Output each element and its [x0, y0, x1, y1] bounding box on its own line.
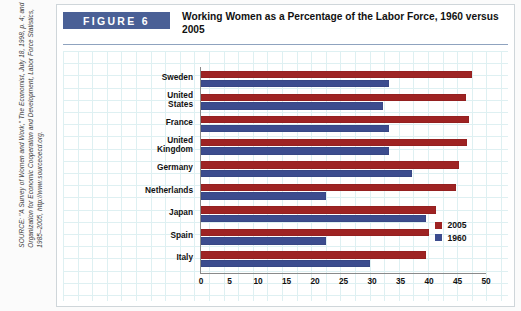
x-tick-label: 0: [199, 276, 204, 286]
category-label: Japan: [63, 208, 193, 217]
category-label: Italy: [63, 253, 193, 262]
bar-1960: [201, 192, 326, 199]
category-label: United Kingdom: [63, 136, 193, 155]
x-tick-label: 15: [282, 276, 291, 286]
chart-row: United States: [201, 92, 486, 115]
x-tick-label: 25: [339, 276, 348, 286]
category-label: France: [63, 118, 193, 127]
bar-2005: [201, 206, 436, 213]
x-tick-label: 20: [310, 276, 319, 286]
figure-title: Working Women as a Percentage of the Lab…: [182, 10, 506, 37]
bar-1960: [201, 102, 383, 109]
x-tick-label: 50: [481, 276, 490, 286]
x-tick-label: 5: [227, 276, 232, 286]
category-label: Germany: [63, 163, 193, 172]
chart-row: United Kingdom: [201, 137, 486, 160]
category-label: United States: [63, 91, 193, 110]
bar-2005: [201, 161, 459, 168]
x-tick-label: 10: [253, 276, 262, 286]
bar-2005: [201, 184, 456, 191]
x-axis-line: [200, 273, 486, 274]
header-divider: [63, 44, 508, 45]
legend-label: 2005: [447, 220, 466, 230]
bar-1960: [201, 147, 389, 154]
source-note: SOURCE: "A Survey of Women and Work," Th…: [17, 0, 44, 248]
figure-header: FIGURE 6 Working Women as a Percentage o…: [57, 5, 514, 47]
category-label: Sweden: [63, 73, 193, 82]
chart-row: Netherlands: [201, 182, 486, 205]
bar-2005: [201, 139, 467, 146]
x-tick-label: 30: [367, 276, 376, 286]
x-axis-tick-labels: 05101520253035404550: [201, 276, 486, 290]
legend-item: 1960: [435, 231, 467, 243]
x-tick-label: 40: [424, 276, 433, 286]
category-label: Spain: [63, 231, 193, 240]
figure-number-badge: FIGURE 6: [63, 12, 170, 29]
chart-row: Italy: [201, 249, 486, 272]
bar-1960: [201, 125, 389, 132]
chart-row: Germany: [201, 159, 486, 182]
bar-1960: [201, 237, 326, 244]
bar-1960: [201, 80, 389, 87]
legend-swatch: [435, 234, 442, 241]
legend-swatch: [435, 222, 442, 229]
x-tick-label: 45: [453, 276, 462, 286]
legend-item: 2005: [435, 219, 467, 231]
bar-1960: [201, 260, 370, 267]
chart-row: Sweden: [201, 69, 486, 92]
bar-2005: [201, 71, 472, 78]
figure-panel: FIGURE 6 Working Women as a Percentage o…: [56, 4, 515, 307]
bar-1960: [201, 170, 412, 177]
bar-2005: [201, 116, 469, 123]
bar-1960: [201, 215, 426, 222]
legend-label: 1960: [447, 233, 466, 243]
bar-2005: [201, 229, 429, 236]
x-tick-label: 35: [396, 276, 405, 286]
figure-screenshot: SOURCE: "A Survey of Women and Work," Th…: [0, 0, 521, 311]
bar-chart: SwedenUnited StatesFranceUnited KingdomG…: [63, 51, 508, 301]
bar-2005: [201, 251, 426, 258]
chart-legend: 20051960: [435, 219, 467, 244]
chart-row: France: [201, 114, 486, 137]
category-label: Netherlands: [63, 186, 193, 195]
bar-2005: [201, 94, 466, 101]
